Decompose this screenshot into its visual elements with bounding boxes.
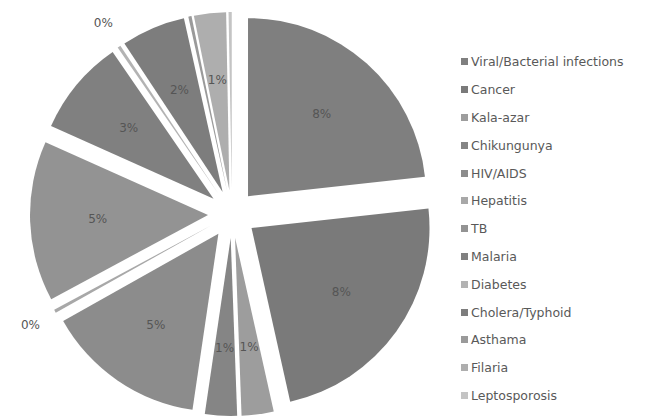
legend-label: Asthama [471, 332, 526, 347]
legend-item: Filaria [461, 354, 623, 382]
chart-legend: Viral/Bacterial infections Cancer Kala-a… [461, 48, 623, 409]
legend-label: Diabetes [471, 277, 527, 292]
legend-item: Diabetes [461, 270, 623, 298]
slice-percent-label: 1% [240, 340, 259, 354]
legend-label: HIV/AIDS [471, 166, 527, 181]
slice-percent-label: 5% [88, 212, 107, 226]
slice-percent-label: 8% [332, 285, 351, 299]
slice-percent-label: 5% [146, 318, 165, 332]
legend-item: Cholera/Typhoid [461, 298, 623, 326]
legend-item: Asthama [461, 326, 623, 354]
legend-swatch-icon [461, 281, 468, 288]
legend-swatch-icon [461, 225, 468, 232]
legend-swatch-icon [461, 114, 468, 121]
legend-item: TB [461, 215, 623, 243]
legend-item: Kala-azar [461, 104, 623, 132]
legend-label: Hepatitis [471, 193, 527, 208]
legend-label: Chikungunya [471, 138, 553, 153]
legend-item: Viral/Bacterial infections [461, 48, 623, 76]
legend-item: Hepatitis [461, 187, 623, 215]
slice-percent-label: 0% [21, 318, 40, 332]
pie-slice [229, 12, 232, 190]
legend-label: Kala-azar [471, 110, 529, 125]
slice-percent-label: 0% [94, 16, 113, 30]
legend-swatch-icon [461, 58, 468, 65]
legend-label: TB [471, 221, 487, 236]
slice-percent-label: 1% [215, 341, 234, 355]
legend-item: Cancer [461, 76, 623, 104]
legend-swatch-icon [461, 364, 468, 371]
legend-item: HIV/AIDS [461, 159, 623, 187]
slice-percent-label: 1% [208, 73, 227, 87]
legend-label: Malaria [471, 249, 517, 264]
legend-swatch-icon [461, 170, 468, 177]
slice-percent-label: 8% [312, 107, 331, 121]
legend-swatch-icon [461, 309, 468, 316]
legend-item: Leptosporosis [461, 382, 623, 410]
legend-swatch-icon [461, 392, 468, 399]
legend-swatch-icon [461, 336, 468, 343]
legend-item: Malaria [461, 243, 623, 271]
legend-label: Leptosporosis [471, 388, 557, 403]
pie-slice [248, 18, 425, 196]
legend-item: Chikungunya [461, 131, 623, 159]
legend-swatch-icon [461, 253, 468, 260]
legend-swatch-icon [461, 142, 468, 149]
legend-label: Filaria [471, 360, 508, 375]
pie-slice [252, 208, 430, 401]
legend-swatch-icon [461, 197, 468, 204]
legend-label: Cholera/Typhoid [471, 305, 571, 320]
slice-percent-label: 2% [170, 83, 189, 97]
slice-percent-label: 3% [119, 121, 138, 135]
legend-label: Cancer [471, 82, 515, 97]
legend-label: Viral/Bacterial infections [471, 54, 623, 69]
legend-swatch-icon [461, 86, 468, 93]
